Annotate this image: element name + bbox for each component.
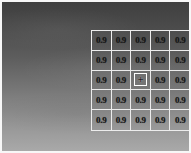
figure-image: 0.9 0.9 0.9 0.9 0.9 0.9 0.9 0.9 0.9 0.9 … [0,0,191,153]
grid-cell: 0.9 [151,110,171,130]
crosshair-marker: + [134,73,147,86]
grid-cell: 0.9 [112,110,132,130]
grid-cell: 0.9 [151,71,171,91]
grid-cell: 0.9 [170,90,190,110]
grid-cell: 0.9 [92,110,112,130]
weight-grid-overlay: 0.9 0.9 0.9 0.9 0.9 0.9 0.9 0.9 0.9 0.9 … [91,30,191,131]
selected-grid-cell: + [131,71,151,91]
grid-cell: 0.9 [170,71,190,91]
grid-cell: 0.9 [112,51,132,71]
grid-cell: 0.9 [131,90,151,110]
grid-cell: 0.9 [131,31,151,51]
grid-cell: 0.9 [170,51,190,71]
grid-cell: 0.9 [131,51,151,71]
grid-cell: 0.9 [151,51,171,71]
grid-cell: 0.9 [92,31,112,51]
grid-cell: 0.9 [112,71,132,91]
grid-cell: 0.9 [151,31,171,51]
grid-cell: 0.9 [151,90,171,110]
grid-cell: 0.9 [112,31,132,51]
grid-cell: 0.9 [170,110,190,130]
grid-cell: 0.9 [92,71,112,91]
grid-cell: 0.9 [112,90,132,110]
grid-cell: 0.9 [92,90,112,110]
grid-cell: 0.9 [92,51,112,71]
grid-cell: 0.9 [131,110,151,130]
grid-cell: 0.9 [170,31,190,51]
